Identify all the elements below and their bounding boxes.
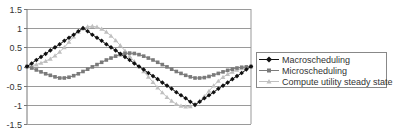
triangle-marker-icon [259, 77, 279, 86]
legend-label: Microscheduling [282, 66, 347, 76]
square-marker-icon [259, 66, 279, 75]
legend-label: Compute utility steady state [282, 77, 393, 87]
y-tick-label: 1.5 [9, 5, 22, 15]
series-group [25, 24, 254, 109]
legend-item-microscheduling: Microscheduling [259, 65, 347, 76]
legend-label: Macroscheduling [282, 55, 350, 65]
series-macroscheduling [25, 26, 254, 107]
y-tick-label: -1 [14, 101, 22, 111]
legend-item-macroscheduling: Macroscheduling [259, 54, 350, 65]
diamond-marker-icon [259, 55, 279, 64]
y-tick-label: 0.5 [9, 43, 22, 53]
legend: Macroscheduling Microscheduling Compute … [256, 52, 387, 88]
y-tick-label: 0 [17, 63, 22, 73]
y-tick-label: -1.5 [6, 120, 22, 130]
legend-item-compute-utility: Compute utility steady state [259, 76, 393, 87]
y-tick-label: -0.5 [6, 82, 22, 92]
y-tick-label: 1 [17, 24, 22, 34]
y-axis-ticks: 1.510.50-0.5-1-1.5 [6, 5, 27, 130]
